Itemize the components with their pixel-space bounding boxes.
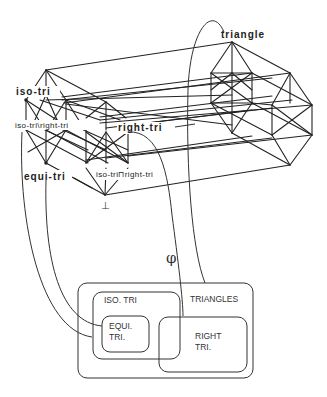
node-equi-tri-dot: [44, 161, 48, 165]
lattice-venn-diagram: triangle iso-tri iso-tri\right-tri right…: [0, 0, 327, 397]
venn-diagram: TRIANGLES ISO. TRI EQUI. TRI. RIGHT TRI.: [78, 283, 253, 378]
label-iso-tri: iso-tri: [16, 86, 51, 97]
venn-label-equi-2: TRI.: [109, 332, 125, 342]
venn-label-right-1: RIGHT: [195, 331, 221, 341]
venn-label-right-2: TRI.: [195, 342, 211, 352]
node-iso-tri-dot: [24, 98, 28, 102]
venn-label-iso: ISO. TRI: [104, 295, 137, 305]
label-equi-tri: equi-tri: [24, 171, 66, 182]
venn-label-triangles: TRIANGLES: [190, 294, 239, 304]
label-bottom: ⊥: [101, 200, 110, 211]
label-triangle: triangle: [221, 29, 265, 40]
venn-label-equi-1: EQUI.: [109, 321, 132, 331]
label-right-tri: right-tri: [118, 122, 163, 133]
label-iso-meet-right: iso-tri⊓right-tri: [96, 170, 153, 179]
label-iso-minus-right: iso-tri\right-tri: [15, 121, 68, 130]
phi-symbol: φ: [166, 249, 177, 267]
